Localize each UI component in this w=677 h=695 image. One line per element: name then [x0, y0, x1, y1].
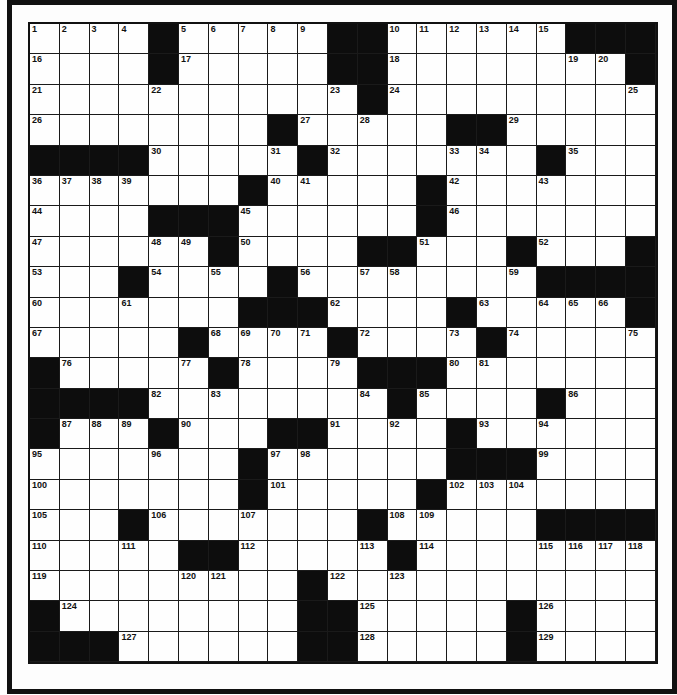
- grid-cell[interactable]: 45: [239, 206, 269, 236]
- grid-cell[interactable]: [626, 632, 656, 662]
- grid-cell[interactable]: [90, 541, 120, 571]
- grid-cell[interactable]: [60, 328, 90, 358]
- grid-cell[interactable]: [268, 85, 298, 115]
- grid-cell[interactable]: 6: [209, 24, 239, 54]
- grid-cell[interactable]: [90, 298, 120, 328]
- grid-cell[interactable]: [179, 176, 209, 206]
- grid-cell[interactable]: 20: [596, 54, 626, 84]
- grid-cell[interactable]: [268, 237, 298, 267]
- grid-cell[interactable]: 96: [149, 449, 179, 479]
- grid-cell[interactable]: 17: [179, 54, 209, 84]
- grid-cell[interactable]: 104: [507, 480, 537, 510]
- grid-cell[interactable]: [358, 206, 388, 236]
- grid-cell[interactable]: 94: [537, 419, 567, 449]
- grid-cell[interactable]: [90, 510, 120, 540]
- grid-cell[interactable]: [626, 480, 656, 510]
- grid-cell[interactable]: 99: [537, 449, 567, 479]
- grid-cell[interactable]: [209, 419, 239, 449]
- grid-cell[interactable]: [119, 328, 149, 358]
- grid-cell[interactable]: 37: [60, 176, 90, 206]
- grid-cell[interactable]: [566, 237, 596, 267]
- grid-cell[interactable]: 82: [149, 389, 179, 419]
- grid-cell[interactable]: 50: [239, 237, 269, 267]
- grid-cell[interactable]: 52: [537, 237, 567, 267]
- grid-cell[interactable]: [507, 389, 537, 419]
- grid-cell[interactable]: [507, 176, 537, 206]
- grid-cell[interactable]: [417, 85, 447, 115]
- grid-cell[interactable]: [566, 449, 596, 479]
- grid-cell[interactable]: [537, 85, 567, 115]
- grid-cell[interactable]: [447, 571, 477, 601]
- grid-cell[interactable]: 84: [358, 389, 388, 419]
- grid-cell[interactable]: 56: [298, 267, 328, 297]
- grid-cell[interactable]: 27: [298, 115, 328, 145]
- grid-cell[interactable]: [328, 176, 358, 206]
- grid-cell[interactable]: [626, 176, 656, 206]
- grid-cell[interactable]: [596, 449, 626, 479]
- grid-cell[interactable]: 77: [179, 358, 209, 388]
- grid-cell[interactable]: [447, 54, 477, 84]
- grid-cell[interactable]: [119, 85, 149, 115]
- grid-cell[interactable]: 59: [507, 267, 537, 297]
- grid-cell[interactable]: 105: [30, 510, 60, 540]
- grid-cell[interactable]: [417, 419, 447, 449]
- grid-cell[interactable]: [417, 328, 447, 358]
- grid-cell[interactable]: [119, 601, 149, 631]
- grid-cell[interactable]: 83: [209, 389, 239, 419]
- grid-cell[interactable]: 49: [179, 237, 209, 267]
- grid-cell[interactable]: [447, 601, 477, 631]
- grid-cell[interactable]: [537, 571, 567, 601]
- grid-cell[interactable]: [119, 358, 149, 388]
- grid-cell[interactable]: 92: [388, 419, 418, 449]
- grid-cell[interactable]: [209, 510, 239, 540]
- grid-cell[interactable]: 34: [477, 146, 507, 176]
- grid-cell[interactable]: [298, 206, 328, 236]
- grid-cell[interactable]: 122: [328, 571, 358, 601]
- grid-cell[interactable]: [268, 601, 298, 631]
- grid-cell[interactable]: [239, 419, 269, 449]
- grid-cell[interactable]: [60, 54, 90, 84]
- grid-cell[interactable]: [507, 358, 537, 388]
- grid-cell[interactable]: 9: [298, 24, 328, 54]
- grid-cell[interactable]: [358, 176, 388, 206]
- grid-cell[interactable]: [566, 176, 596, 206]
- grid-cell[interactable]: 1: [30, 24, 60, 54]
- grid-cell[interactable]: [60, 541, 90, 571]
- grid-cell[interactable]: [447, 510, 477, 540]
- grid-cell[interactable]: [388, 206, 418, 236]
- grid-cell[interactable]: [537, 54, 567, 84]
- grid-cell[interactable]: [328, 510, 358, 540]
- grid-cell[interactable]: [626, 206, 656, 236]
- grid-cell[interactable]: [566, 328, 596, 358]
- grid-cell[interactable]: 57: [358, 267, 388, 297]
- grid-cell[interactable]: [507, 54, 537, 84]
- grid-cell[interactable]: 32: [328, 146, 358, 176]
- grid-cell[interactable]: [507, 541, 537, 571]
- grid-cell[interactable]: [90, 115, 120, 145]
- grid-cell[interactable]: [596, 206, 626, 236]
- grid-cell[interactable]: [149, 601, 179, 631]
- grid-cell[interactable]: 30: [149, 146, 179, 176]
- grid-cell[interactable]: [60, 480, 90, 510]
- grid-cell[interactable]: [119, 480, 149, 510]
- grid-cell[interactable]: [388, 480, 418, 510]
- grid-cell[interactable]: [149, 632, 179, 662]
- grid-cell[interactable]: [417, 54, 447, 84]
- grid-cell[interactable]: [209, 115, 239, 145]
- grid-cell[interactable]: [239, 85, 269, 115]
- grid-cell[interactable]: [179, 298, 209, 328]
- grid-cell[interactable]: [566, 480, 596, 510]
- grid-cell[interactable]: 81: [477, 358, 507, 388]
- grid-cell[interactable]: [626, 389, 656, 419]
- grid-cell[interactable]: 18: [388, 54, 418, 84]
- grid-cell[interactable]: [179, 632, 209, 662]
- grid-cell[interactable]: [477, 85, 507, 115]
- grid-cell[interactable]: 66: [596, 298, 626, 328]
- grid-cell[interactable]: [358, 146, 388, 176]
- grid-cell[interactable]: 29: [507, 115, 537, 145]
- grid-cell[interactable]: 26: [30, 115, 60, 145]
- grid-cell[interactable]: [90, 206, 120, 236]
- grid-cell[interactable]: 21: [30, 85, 60, 115]
- grid-cell[interactable]: [388, 328, 418, 358]
- grid-cell[interactable]: [596, 632, 626, 662]
